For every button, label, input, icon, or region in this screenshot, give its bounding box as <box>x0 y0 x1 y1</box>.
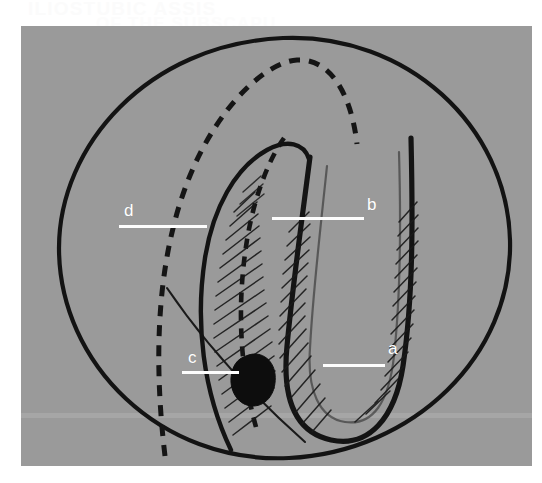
figure-root: ILIOSTUBIC ASSIS OF THE SUBSCAPU <box>0 0 542 483</box>
anatomical-drawing <box>21 26 532 466</box>
label-d: d <box>124 202 133 219</box>
black-nodule <box>231 354 275 406</box>
leader-line-b <box>272 217 364 220</box>
central-loop-inner-edge <box>310 152 401 422</box>
leader-line-a <box>323 364 385 367</box>
label-c: c <box>188 349 197 366</box>
leader-line-d <box>119 225 207 228</box>
outer-ovoid-outline <box>59 38 510 458</box>
label-b: b <box>367 196 376 213</box>
leader-line-c <box>182 371 239 374</box>
figure-plate: a b c d <box>21 26 532 466</box>
label-a: a <box>388 340 397 357</box>
hatching-central-left <box>279 212 331 432</box>
